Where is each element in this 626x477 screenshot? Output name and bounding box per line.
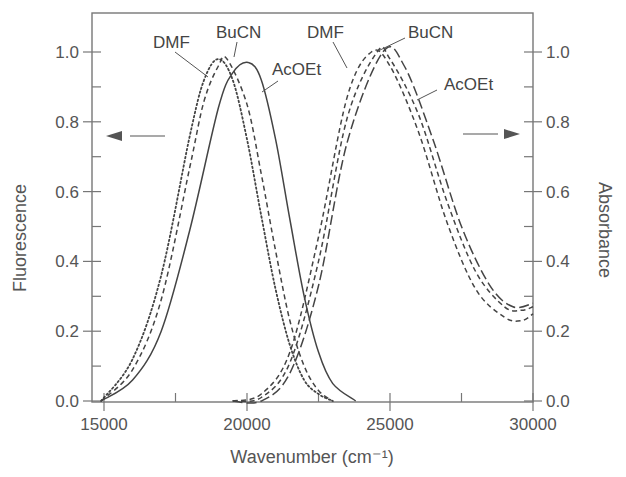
label-ab-bucn: BuCN xyxy=(408,23,453,42)
leader-fl-bucn xyxy=(234,42,237,57)
y-left-tick-label: 0.6 xyxy=(55,183,79,202)
y-left-tick-label: 0.4 xyxy=(55,252,79,271)
y-left-tick-label: 0.8 xyxy=(55,113,79,132)
y-right-tick-label: 1.0 xyxy=(546,43,570,62)
fluorescence-acoet-curve xyxy=(101,62,356,401)
y-axis-right-title: Absorbance xyxy=(595,182,615,278)
y-right-tick-label: 0.4 xyxy=(546,252,570,271)
absorbance-dmf-curve xyxy=(233,50,533,401)
x-tick-label: 30000 xyxy=(509,415,556,434)
absorbance-acoet-curve xyxy=(233,47,533,403)
leader-ab-bucn xyxy=(378,38,405,51)
x-axis-title: Wavenumber (cm⁻¹) xyxy=(230,447,393,467)
y-left-tick-label: 1.0 xyxy=(55,43,79,62)
fluorescence-bucn-curve xyxy=(101,56,333,401)
leader-fl-dmf xyxy=(175,52,208,77)
leader-ab-acoet xyxy=(417,90,437,100)
x-tick-label: 25000 xyxy=(366,415,413,434)
y-right-tick-label: 0.6 xyxy=(546,183,570,202)
label-ab-dmf: DMF xyxy=(307,23,344,42)
label-fl-dmf: DMF xyxy=(153,33,190,52)
y-left-tick-label: 0.0 xyxy=(55,392,79,411)
leader-ab-dmf xyxy=(333,42,347,68)
axis-ticks: 150002000025000300000.00.00.20.20.40.40.… xyxy=(55,43,569,434)
leader-fl-acoet xyxy=(262,81,278,92)
x-tick-label: 20000 xyxy=(223,415,270,434)
label-ab-acoet: AcOEt xyxy=(444,75,493,94)
right-arrow-icon xyxy=(463,129,520,139)
x-tick-label: 15000 xyxy=(80,415,127,434)
y-right-tick-label: 0.8 xyxy=(546,113,570,132)
y-right-tick-label: 0.0 xyxy=(546,392,570,411)
curves xyxy=(101,47,533,403)
spectra-chart: 150002000025000300000.00.00.20.20.40.40.… xyxy=(0,0,626,477)
absorbance-bucn-curve xyxy=(233,47,533,401)
label-fl-acoet: AcOEt xyxy=(272,60,321,79)
y-left-tick-label: 0.2 xyxy=(55,322,79,341)
left-arrow-icon xyxy=(106,131,165,141)
y-axis-left-title: Fluorescence xyxy=(10,184,30,292)
y-right-tick-label: 0.2 xyxy=(546,322,570,341)
fluorescence-dmf-curve xyxy=(101,59,333,401)
label-fl-bucn: BuCN xyxy=(216,23,261,42)
